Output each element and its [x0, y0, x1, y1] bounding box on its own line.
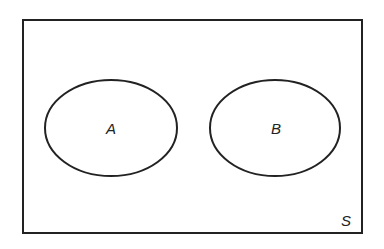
universe-label: S [341, 212, 351, 229]
set-a-label: A [105, 120, 116, 137]
set-b-label: B [271, 120, 281, 137]
venn-diagram: A B S [0, 0, 384, 249]
universe-rectangle [23, 20, 362, 233]
